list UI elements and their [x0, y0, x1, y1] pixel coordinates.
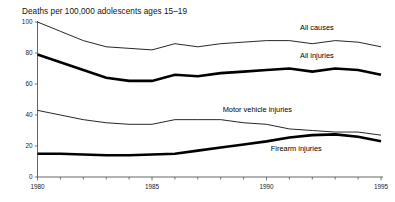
series-label-all-causes: All causes [300, 23, 334, 32]
series-label-motor-vehicle-injuries: Motor vehicle injuries [223, 105, 293, 114]
x-tick-label: 1985 [145, 183, 160, 190]
y-axis: 020406080100 [22, 18, 38, 180]
y-tick-label: 20 [25, 142, 33, 149]
y-tick-label: 100 [22, 18, 33, 25]
series-line-firearm-injuries [38, 134, 382, 155]
chart-figure: Deaths per 100,000 adolescents ages 15–1… [0, 0, 395, 202]
series-label-firearm-injuries: Firearm injuries [271, 144, 322, 153]
x-tick-label: 1990 [259, 183, 274, 190]
series-line-motor-vehicle-injuries [38, 110, 382, 135]
x-tick-label: 1980 [30, 183, 45, 190]
x-tick-label: 1995 [374, 183, 389, 190]
line-chart-plot: 020406080100 1980198519901995 All causes… [0, 0, 395, 202]
y-tick-label: 80 [25, 49, 33, 56]
y-tick-label: 40 [25, 111, 33, 118]
x-axis: 1980198519901995 [30, 177, 388, 190]
series-label-all-injuries: All injuries [300, 51, 334, 60]
series-lines [38, 22, 382, 155]
y-tick-label: 0 [29, 173, 33, 180]
y-tick-label: 60 [25, 80, 33, 87]
